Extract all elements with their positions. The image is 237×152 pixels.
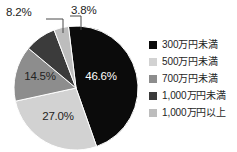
legend: 300万円未満 500万円未満 700万円未満 1,000万円未満 1,000万… [149, 36, 237, 121]
pie-slice-group [14, 26, 138, 150]
pie-chart-plot-area: 46.6% 27.0% 14.5% 8.2% 3.8% [0, 0, 150, 152]
legend-swatch-icon [149, 109, 157, 117]
pie-callout-label-1000man-miman: 8.2% [6, 6, 31, 18]
legend-swatch-icon [149, 41, 157, 49]
legend-item-label: 500万円未満 [162, 57, 218, 67]
legend-swatch-icon [149, 75, 157, 83]
legend-item-label: 700万円未満 [162, 74, 218, 84]
legend-swatch-icon [149, 92, 157, 100]
legend-item-label: 1,000万円以上 [162, 108, 226, 118]
legend-item-label: 300万円未満 [162, 40, 218, 50]
legend-item-label: 1,000万円未満 [162, 91, 226, 101]
legend-item-300man[interactable]: 300万円未満 [149, 36, 237, 53]
legend-item-1000man-ijou[interactable]: 1,000万円以上 [149, 104, 237, 121]
pie-callout-label-1000man-ijou: 3.8% [71, 4, 96, 16]
legend-item-500man[interactable]: 500万円未満 [149, 53, 237, 70]
pie-chart-figure: 46.6% 27.0% 14.5% 8.2% 3.8% 300万円未満 500万… [0, 0, 237, 152]
legend-item-1000man-miman[interactable]: 1,000万円未満 [149, 87, 237, 104]
pie-chart-svg [0, 0, 150, 152]
legend-swatch-icon [149, 58, 157, 66]
legend-item-700man[interactable]: 700万円未満 [149, 70, 237, 87]
